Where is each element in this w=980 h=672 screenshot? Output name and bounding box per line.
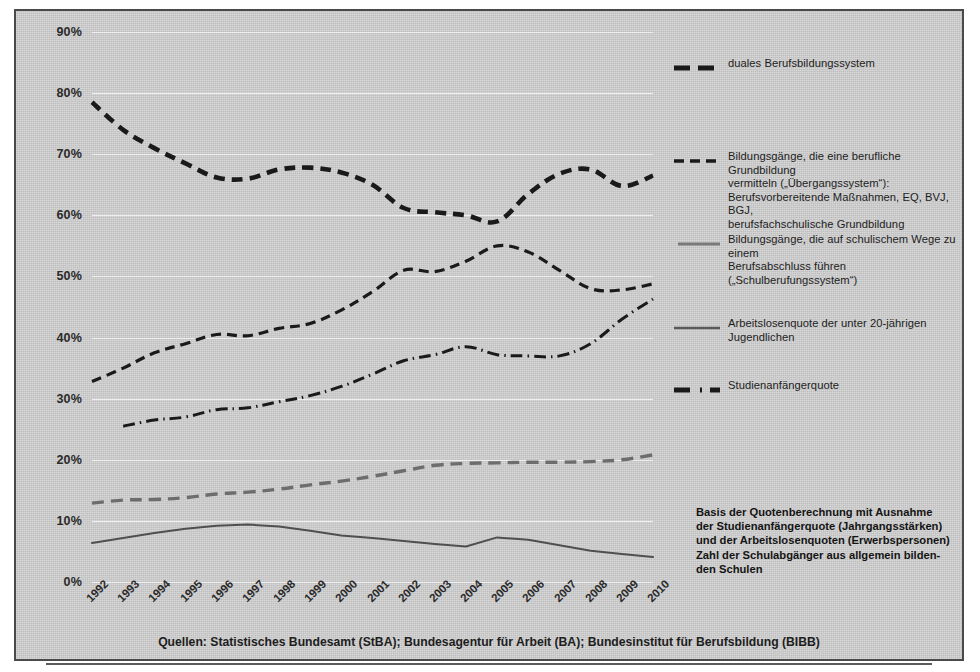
series-line-5 <box>123 299 653 426</box>
basis-note-line: den Schulen <box>696 562 966 576</box>
series-line-3 <box>92 455 653 503</box>
y-tick-label: 0% <box>64 575 82 589</box>
plot-area: 0%10%20%30%40%50%60%70%80%90% 1992199319… <box>92 32 653 582</box>
basis-note-line: Zahl der Schulabgänger aus allgemein bil… <box>696 548 966 562</box>
legend-item-line: duales Berufsbildungssystem <box>728 57 875 71</box>
series-line-4 <box>92 525 653 557</box>
legend-item-label: duales Berufsbildungssystem <box>728 57 875 71</box>
series-line-1 <box>92 102 653 222</box>
basis-note-line: und der Arbeitslosenquoten (Erwerbsperso… <box>696 533 966 547</box>
source-line: Quellen: Statistisches Bundesamt (StBA);… <box>16 635 962 649</box>
y-tick-label: 60% <box>56 208 82 222</box>
y-tick-label: 50% <box>56 269 82 283</box>
solid-key-icon <box>674 322 720 334</box>
legend-item-line: Studienanfängerquote <box>728 379 839 393</box>
legend-item-line: Arbeitslosenquote der unter 20-jährigen … <box>728 317 962 344</box>
legend-item-line: vermitteln („Übergangssystem“): <box>728 177 962 191</box>
legend-item-line: berufsfachschulische Grundbildung <box>728 218 962 232</box>
legend-item-line: Bildungsgänge, die auf schulischem Wege … <box>728 233 962 260</box>
gray-solid-key-icon <box>674 238 720 250</box>
chart-frame: 0%10%20%30%40%50%60%70%80%90% 1992199319… <box>14 9 964 661</box>
legend-item[interactable]: Bildungsgänge, die eine berufliche Grund… <box>674 150 962 232</box>
y-tick-label: 10% <box>56 514 82 528</box>
legend-item[interactable]: Studienanfängerquote <box>674 379 839 393</box>
legend-item-label: Bildungsgänge, die eine berufliche Grund… <box>728 150 962 232</box>
basis-note: Basis der Quotenberechnung mit Ausnahmed… <box>696 505 966 576</box>
basis-note-line: der Studienanfängerquote (Jahrgangsstärk… <box>696 519 966 533</box>
y-tick-label: 30% <box>56 392 82 406</box>
legend-item-label: Bildungsgänge, die auf schulischem Wege … <box>728 233 962 287</box>
legend-item[interactable]: Bildungsgänge, die auf schulischem Wege … <box>674 233 962 287</box>
dashed-key-icon <box>674 155 720 167</box>
legend-item-line: Berufsabschluss führen („Schulberufungss… <box>728 260 962 287</box>
legend-item[interactable]: duales Berufsbildungssystem <box>674 57 875 71</box>
series-lines <box>92 32 653 582</box>
legend-item[interactable]: Arbeitslosenquote der unter 20-jährigen … <box>674 317 962 344</box>
y-tick-label: 80% <box>56 86 82 100</box>
y-tick-label: 90% <box>56 25 82 39</box>
legend-item-line: Berufsvorbereitende Maßnahmen, EQ, BVJ, … <box>728 191 962 218</box>
y-tick-label: 70% <box>56 147 82 161</box>
series-line-2 <box>92 245 653 381</box>
basis-note-line: Basis der Quotenberechnung mit Ausnahme <box>696 505 966 519</box>
chart-figure: 0%10%20%30%40%50%60%70%80%90% 1992199319… <box>0 0 980 672</box>
y-tick-label: 20% <box>56 453 82 467</box>
legend-item-label: Arbeitslosenquote der unter 20-jährigen … <box>728 317 962 344</box>
source-divider <box>46 663 932 665</box>
legend-item-label: Studienanfängerquote <box>728 379 839 393</box>
legend-item-line: Bildungsgänge, die eine berufliche Grund… <box>728 150 962 177</box>
thick-dashed-key-icon <box>674 62 720 74</box>
dash-dot-key-icon <box>674 384 720 396</box>
y-tick-label: 40% <box>56 331 82 345</box>
